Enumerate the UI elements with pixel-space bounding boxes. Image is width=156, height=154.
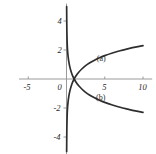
x-tick-label: 5 — [102, 83, 106, 92]
x-tick-label: -5 — [23, 83, 30, 92]
y-tick-label: 2 — [58, 46, 62, 55]
y-tick-label: 4 — [58, 17, 62, 26]
axes-group — [19, 4, 152, 154]
chart-figure: -5051042-2-4(a)(b) — [0, 0, 156, 154]
curve-label-b: (b) — [96, 94, 105, 102]
x-tick-label: 0 — [58, 83, 62, 92]
y-tick-label: -2 — [54, 104, 61, 113]
plot-canvas — [0, 0, 156, 154]
x-tick-label: 10 — [138, 83, 147, 92]
y-tick-label: -4 — [54, 133, 61, 142]
curve-label-a: (a) — [97, 55, 106, 63]
